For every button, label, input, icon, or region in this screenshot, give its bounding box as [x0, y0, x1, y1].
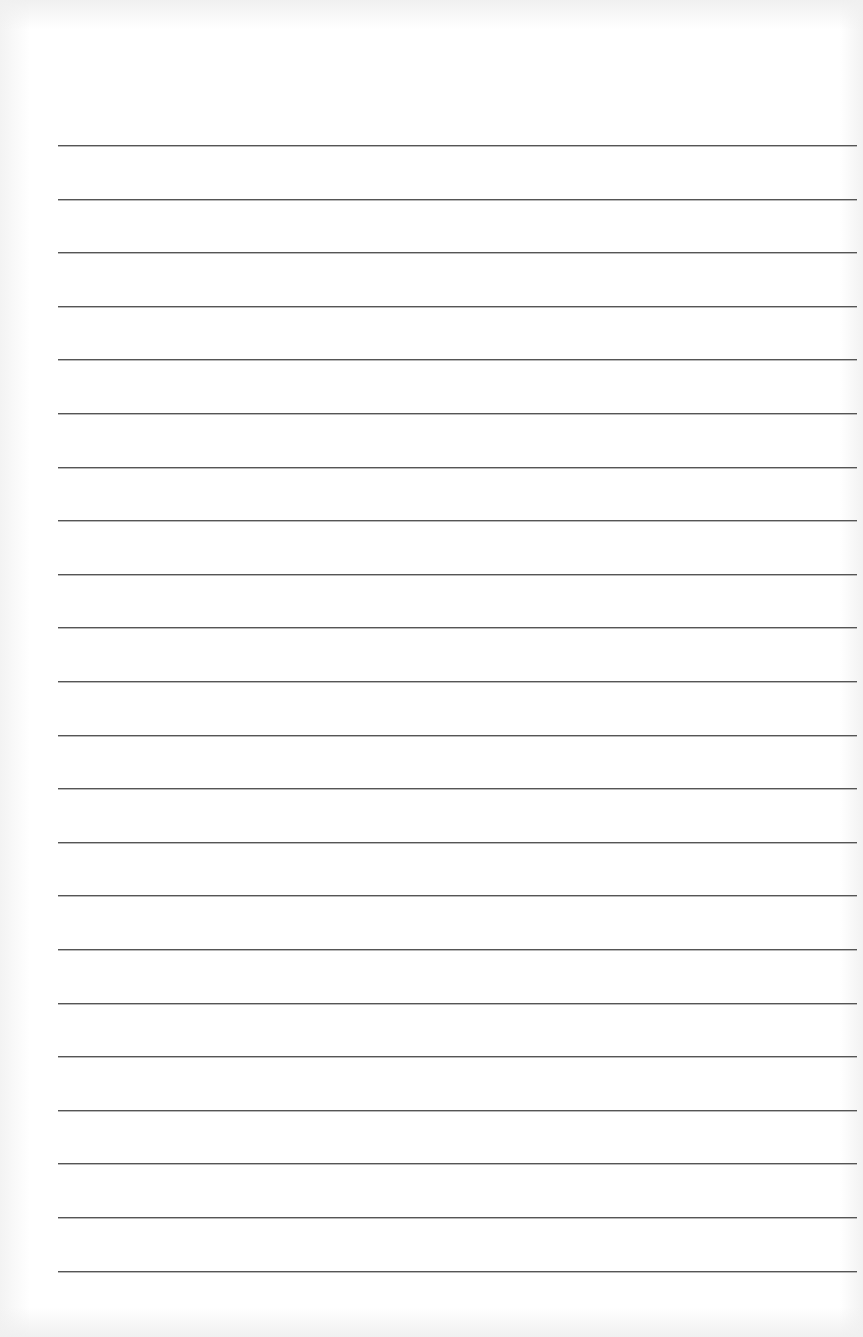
ruled-line [58, 520, 857, 522]
ruled-line [58, 1056, 857, 1058]
ruled-line [58, 145, 857, 147]
ruled-line [58, 199, 857, 201]
ruled-line [58, 306, 857, 308]
ruled-line [58, 1217, 857, 1219]
ruled-line [58, 1110, 857, 1112]
ruled-line [58, 627, 857, 629]
ruled-line [58, 1163, 857, 1165]
top-edge-shadow [0, 0, 863, 30]
ruled-line [58, 681, 857, 683]
ruled-line [58, 788, 857, 790]
ruled-line [58, 359, 857, 361]
ruled-line [58, 1003, 857, 1005]
ruled-line [58, 1271, 857, 1273]
ruled-line [58, 574, 857, 576]
lined-paper-page [0, 0, 863, 1337]
ruled-line [58, 842, 857, 844]
ruled-line [58, 949, 857, 951]
ruled-line [58, 735, 857, 737]
ruled-line [58, 413, 857, 415]
bottom-edge-shadow [0, 1307, 863, 1337]
ruled-line [58, 467, 857, 469]
ruled-line [58, 252, 857, 254]
ruled-line [58, 895, 857, 897]
